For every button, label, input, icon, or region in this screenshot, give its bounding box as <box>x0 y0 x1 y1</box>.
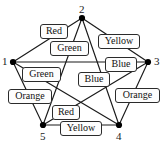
vertex-label-1: 1 <box>2 56 8 67</box>
edge-label-yellow-2-3: Yellow <box>98 34 140 49</box>
vertex-label-2: 2 <box>79 4 85 15</box>
edge-label-blue-1-3: Blue <box>105 57 137 72</box>
vertex-label-3: 3 <box>154 56 160 67</box>
edge-label-green-2-5: Green <box>50 41 89 56</box>
vertex-label-5: 5 <box>40 131 46 142</box>
edge-label-green-1-4: Green <box>22 67 61 82</box>
edge-label-blue-2-4: Blue <box>78 72 110 87</box>
graph-coloring-diagram: 12345 RedGreenYellowBlueGreenBlueOrangeO… <box>0 0 163 146</box>
vertex-dot-1 <box>10 59 16 65</box>
edge-label-orange-3-4: Orange <box>115 88 160 103</box>
edge-label-red-1-2: Red <box>40 24 68 39</box>
edge-label-red-3-5: Red <box>52 105 80 120</box>
vertex-dot-4 <box>116 122 122 128</box>
edge-label-yellow-4-5: Yellow <box>60 121 102 136</box>
vertex-label-4: 4 <box>116 131 122 142</box>
edge-label-orange-1-5: Orange <box>8 89 52 104</box>
vertex-dot-2 <box>79 15 85 21</box>
vertex-dot-5 <box>40 122 46 128</box>
vertex-dot-3 <box>145 59 151 65</box>
